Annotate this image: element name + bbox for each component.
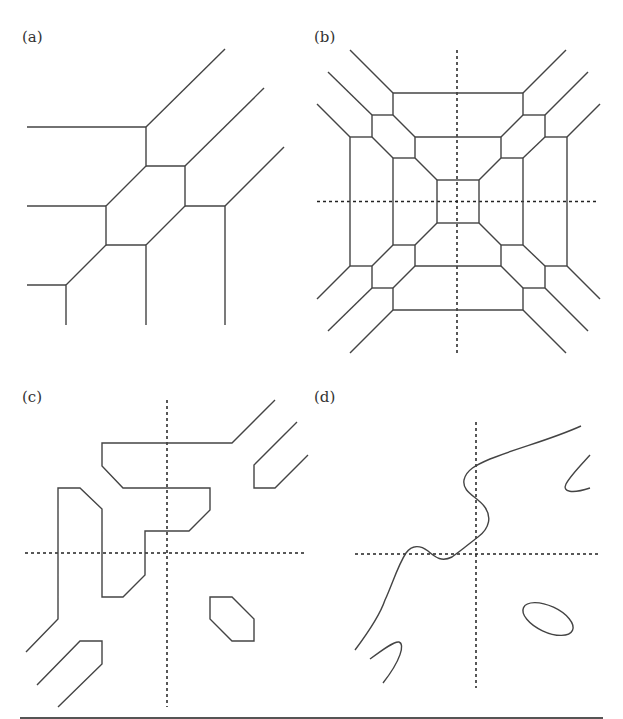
panel-a-diagram: [27, 49, 284, 325]
figure: (a) (b) (c) (d): [0, 0, 623, 719]
panel-d-diagram: [355, 422, 600, 688]
panel-b-diagram: [317, 50, 600, 354]
figure-canvas: [0, 0, 623, 719]
panel-c-diagram: [25, 400, 308, 707]
